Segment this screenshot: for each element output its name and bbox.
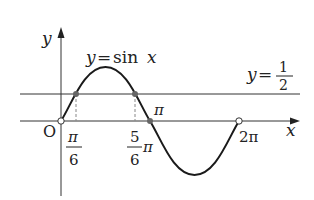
line-label-num: 1: [279, 59, 288, 75]
curve-label-var: x: [147, 47, 157, 67]
y-axis-arrow-icon: [58, 27, 65, 38]
sine-graph-diagram: y x O y = sin x y = 1 2 π 6 5 6 π π 2π: [0, 0, 314, 200]
point-pi-over-6: [73, 91, 79, 97]
x-axis-label: x: [286, 120, 296, 140]
curve-label-fn: sin: [113, 47, 138, 67]
tick-pi-over-6-den: 6: [69, 151, 79, 169]
tick-pi-over-6-num: π: [67, 128, 79, 146]
tick-5pi-over-6-num: 5: [130, 128, 140, 146]
open-point-origin: [58, 118, 64, 124]
tick-5pi-over-6-suffix: π: [142, 138, 154, 156]
line-label-y: y: [246, 64, 257, 84]
line-label-eq: =: [258, 64, 272, 84]
open-point-2pi: [236, 118, 242, 124]
curve-label-eq: =: [97, 47, 111, 67]
y-axis-label: y: [41, 28, 52, 48]
origin-label: O: [43, 122, 56, 141]
point-pi: [147, 118, 153, 124]
tick-pi: π: [153, 101, 165, 119]
line-label-den: 2: [279, 77, 288, 93]
tick-2pi: 2π: [239, 128, 259, 146]
tick-5pi-over-6-den: 6: [130, 151, 140, 169]
point-5pi-over-6: [132, 91, 138, 97]
curve-label-y: y: [85, 47, 96, 67]
